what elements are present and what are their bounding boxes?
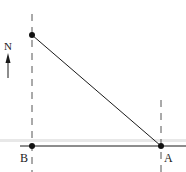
slant-line [32,35,161,146]
top-point [29,32,35,38]
label-B: B [20,151,28,165]
geometry-diagram: B A N [0,0,186,172]
north-arrow-icon: N [4,40,12,78]
point-A [158,143,164,149]
grey-band [0,139,186,142]
north-label: N [4,40,12,52]
label-A: A [164,151,173,165]
point-B [29,143,35,149]
